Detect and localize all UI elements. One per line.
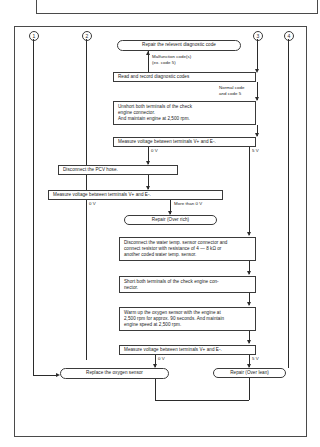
node-disconnect-water-temp-sensor[interactable]: Disconnect the water temp. sensor connec… <box>119 237 256 261</box>
node-repair-relevant-code[interactable]: Repair the relevent diagnostic code <box>117 40 241 51</box>
ref-circle-1: 1 <box>29 31 39 41</box>
return-path-up <box>249 378 250 400</box>
rail-4-vertical <box>288 39 289 368</box>
ref-circle-3: 3 <box>253 31 263 41</box>
edge-measure1-five-arrow <box>247 232 251 236</box>
rail-2-vertical <box>86 39 87 206</box>
node-short-terminals-text: Short both terminals of the check engine… <box>124 279 219 290</box>
return-path-down <box>155 379 156 400</box>
node-replace-oxygen-sensor[interactable]: Replace the oxygen sensor <box>60 368 169 379</box>
rail-1-vertical <box>33 39 34 375</box>
node-unshort-terminals[interactable]: Unshort both terminals of the check engi… <box>113 101 256 125</box>
node-repair-over-rich[interactable]: Repair (Over rich) <box>124 215 217 225</box>
node-measure-voltage-3[interactable]: Measure voltage between terminals V+ and… <box>119 345 256 355</box>
edge-short-to-warmup-arrow <box>247 302 251 306</box>
top-border-frame <box>36 0 318 14</box>
node-read-record-codes[interactable]: Read and record diagnostic codes <box>113 72 256 82</box>
return-path-horizontal <box>155 400 249 401</box>
node-measure-voltage-1[interactable]: Measure voltage between terminals V+ and… <box>113 137 256 147</box>
edge-label-measure3-five: 5 V <box>252 356 259 362</box>
ref-circle-2: 2 <box>82 31 92 41</box>
node-measure-voltage-2[interactable]: Measure voltage between terminals V+ and… <box>48 190 223 200</box>
node-disconnect-water-temp-sensor-text: Disconnect the water temp. sensor connec… <box>124 240 227 257</box>
edge-read-to-repair-arrow <box>146 51 150 55</box>
node-repair-over-lean[interactable]: Repair (Over lean) <box>213 368 286 378</box>
ref-circle-4: 4 <box>284 31 294 41</box>
edge-label-measure3-zero: 0 V <box>158 356 165 362</box>
node-short-terminals[interactable]: Short both terminals of the check engine… <box>119 276 256 293</box>
node-disconnect-pcv-hose[interactable]: Disconnect the PCV hose. <box>58 165 178 175</box>
edge-label-malfunction: Malfunction code(s) (ex. code 5) <box>152 54 191 65</box>
edge-label-measure2-zero: 0 V <box>89 201 96 207</box>
node-warm-up-oxygen-sensor[interactable]: Warm up the oxygen sensor with the engin… <box>119 307 256 331</box>
edge-label-measure2-more: More than 0 V <box>174 201 202 207</box>
rail-1-elbow <box>33 375 57 376</box>
edge-label-measure1-zero: 0 V <box>151 148 158 154</box>
edge-watertemp-to-short-arrow <box>247 271 251 275</box>
edge-warmup-to-measure3-arrow <box>247 340 251 344</box>
flowchart-canvas: 1 2 3 4 Repair the relevent diagnostic c… <box>0 0 320 447</box>
edge-measure1-five-v <box>249 147 250 235</box>
edge-label-normal-code: Normal code and code 5 <box>219 85 244 96</box>
node-unshort-terminals-text: Unshort both terminals of the check engi… <box>118 104 192 121</box>
edge-measure2-zero-v <box>86 200 87 360</box>
rail-3-vertical <box>257 39 258 71</box>
edge-label-measure1-five: 5 V <box>252 148 259 154</box>
node-warm-up-oxygen-sensor-text: Warm up the oxygen sensor with the engin… <box>124 310 224 327</box>
